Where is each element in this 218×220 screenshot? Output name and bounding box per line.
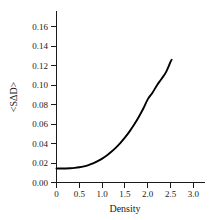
- axis-lines: [57, 11, 206, 183]
- chart-plot-area: 0.00 0.02 0.04 0.06 0.08 0.10 0.12 0.14 …: [0, 0, 218, 220]
- x-axis-title: Density: [109, 203, 140, 214]
- x-tick-label: 2.5: [165, 189, 177, 199]
- x-tick-marks: [57, 183, 194, 189]
- x-tick-labels: 0 0.5 1.0 1.5 2.0 2.5 3.0: [54, 189, 199, 199]
- y-tick-label: 0.00: [32, 178, 48, 188]
- y-tick-label: 0.14: [32, 41, 48, 51]
- y-tick-label: 0.16: [32, 22, 48, 32]
- x-tick-label: 3.0: [188, 189, 200, 199]
- y-tick-label: 0.06: [32, 119, 48, 129]
- x-tick-label: 0.5: [74, 189, 86, 199]
- x-tick-label: 0: [54, 189, 59, 199]
- y-tick-label: 0.08: [32, 100, 48, 110]
- y-axis-title: <SΔD>: [8, 81, 19, 112]
- y-tick-marks: [51, 27, 57, 183]
- y-tick-labels: 0.00 0.02 0.04 0.06 0.08 0.10 0.12 0.14 …: [32, 22, 48, 188]
- x-tick-label: 2.0: [142, 189, 154, 199]
- chart-figure: 0.00 0.02 0.04 0.06 0.08 0.10 0.12 0.14 …: [0, 0, 218, 220]
- y-tick-label: 0.10: [32, 80, 48, 90]
- x-tick-label: 1.0: [96, 189, 108, 199]
- x-tick-label: 1.5: [119, 189, 131, 199]
- y-tick-label: 0.04: [32, 139, 48, 149]
- y-tick-label: 0.02: [32, 158, 48, 168]
- y-tick-label: 0.12: [32, 61, 48, 71]
- data-curve: [57, 60, 172, 169]
